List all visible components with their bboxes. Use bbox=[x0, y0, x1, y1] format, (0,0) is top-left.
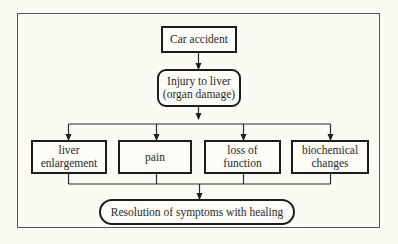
node-liver-enlargement: liver enlargement bbox=[31, 140, 107, 174]
node-loss-of-function: loss of function bbox=[204, 140, 281, 174]
node-pain: pain bbox=[118, 140, 192, 174]
node-injury-to-liver: Injury to liver (organ damage) bbox=[157, 69, 241, 107]
node-biochemical-changes: biochemical changes bbox=[291, 140, 369, 174]
node-resolution-of-symptoms: Resolution of symptoms with healing bbox=[99, 199, 295, 225]
node-car-accident: Car accident bbox=[161, 26, 237, 53]
